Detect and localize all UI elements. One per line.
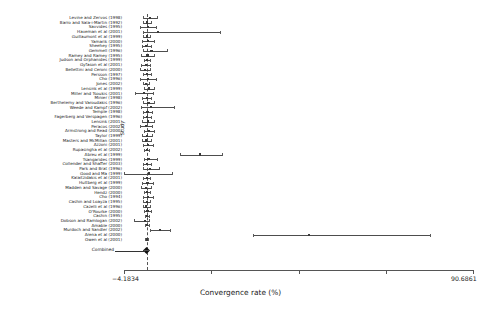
confidence-interval-row [124, 148, 473, 152]
ci-cap [140, 125, 141, 128]
confidence-interval-row [124, 115, 473, 119]
point-estimate-marker [146, 21, 148, 23]
point-estimate-marker [146, 135, 148, 137]
ci-cap [172, 172, 173, 175]
point-estimate-marker [148, 87, 150, 89]
ci-cap [140, 78, 141, 81]
point-estimate-marker [146, 35, 148, 37]
x-axis: −4.183490.6861 [124, 270, 473, 271]
ci-cap [156, 78, 157, 81]
confidence-interval-row [124, 162, 473, 166]
ci-cap [152, 125, 153, 128]
ci-cap [154, 87, 155, 90]
combined-ci-row [124, 249, 473, 253]
confidence-interval-row [124, 40, 473, 44]
ci-cap [430, 234, 431, 237]
ci-cap [151, 163, 152, 166]
confidence-interval-row [124, 129, 473, 133]
ci-cap [222, 153, 223, 156]
ci-cap [149, 215, 150, 218]
ci-cap [144, 130, 145, 133]
point-estimate-marker [146, 163, 148, 165]
ci-cap [150, 64, 151, 67]
ci-cap [143, 82, 144, 85]
confidence-interval-row [124, 25, 473, 29]
point-estimate-marker [144, 69, 146, 71]
ci-cap [152, 134, 153, 137]
ci-cap [143, 167, 144, 170]
confidence-interval-row [124, 195, 473, 199]
ci-cap [143, 200, 144, 203]
ci-whisker [134, 221, 149, 222]
ci-cap [143, 21, 144, 24]
ci-cap [153, 196, 154, 199]
point-estimate-marker [308, 234, 310, 236]
x-axis-tick-label-min: −4.1834 [112, 275, 139, 282]
point-estimate-marker [146, 210, 148, 212]
ci-whisker [253, 235, 430, 236]
confidence-interval-row [124, 158, 473, 162]
ci-whisker [141, 107, 174, 108]
ci-cap [144, 87, 145, 90]
confidence-interval-row [124, 106, 473, 110]
confidence-interval-row [124, 139, 473, 143]
confidence-interval-row [124, 205, 473, 209]
combined-ci-whisker [144, 250, 150, 251]
point-estimate-marker [146, 224, 148, 226]
point-estimate-marker [145, 205, 147, 207]
ci-cap [143, 49, 144, 52]
ci-cap [143, 196, 144, 199]
confidence-interval-row [124, 172, 473, 176]
ci-cap [151, 45, 152, 48]
ci-cap [154, 54, 155, 57]
confidence-interval-row [124, 110, 473, 114]
ci-cap [153, 182, 154, 185]
confidence-interval-row [124, 87, 473, 91]
confidence-interval-row [124, 120, 473, 124]
point-estimate-marker [147, 196, 149, 198]
confidence-interval-row [124, 68, 473, 72]
ci-cap [149, 224, 150, 227]
ci-cap [153, 144, 154, 147]
ci-cap [135, 92, 136, 95]
x-axis-title: Convergence rate (%) [0, 288, 481, 297]
ci-cap [143, 205, 144, 208]
ci-cap [134, 219, 135, 222]
point-estimate-marker [147, 144, 149, 146]
ci-cap [140, 68, 141, 71]
ci-cap [143, 31, 144, 34]
ci-cap [156, 26, 157, 29]
confidence-interval-row [124, 63, 473, 67]
ci-whisker [143, 51, 167, 52]
ci-cap [157, 158, 158, 161]
ci-cap [151, 139, 152, 142]
confidence-interval-row [124, 77, 473, 81]
point-estimate-marker [146, 111, 148, 113]
point-estimate-marker [147, 40, 149, 42]
ci-cap [150, 191, 151, 194]
ci-cap [150, 68, 151, 71]
confidence-interval-row [124, 96, 473, 100]
ci-cap [142, 134, 143, 137]
ci-cap [253, 234, 254, 237]
point-estimate-marker [146, 97, 148, 99]
ci-cap [143, 35, 144, 38]
confidence-interval-row [124, 21, 473, 25]
point-estimate-marker [149, 17, 151, 19]
ci-cap [143, 73, 144, 76]
ci-cap [143, 101, 144, 104]
confidence-interval-row [124, 210, 473, 214]
ci-cap [154, 40, 155, 43]
ci-cap [150, 59, 151, 62]
confidence-interval-row [124, 186, 473, 190]
x-axis-tick [473, 270, 474, 274]
point-estimate-marker [144, 220, 146, 222]
point-estimate-marker [147, 78, 149, 80]
confidence-interval-row [124, 101, 473, 105]
point-estimate-marker [146, 201, 148, 203]
point-estimate-marker [159, 229, 161, 231]
forest-plot: Levine and Zervos (1998)Barro and Sala-i… [0, 0, 481, 315]
ci-cap [141, 64, 142, 67]
confidence-interval-row [124, 49, 473, 53]
ci-cap [144, 59, 145, 62]
